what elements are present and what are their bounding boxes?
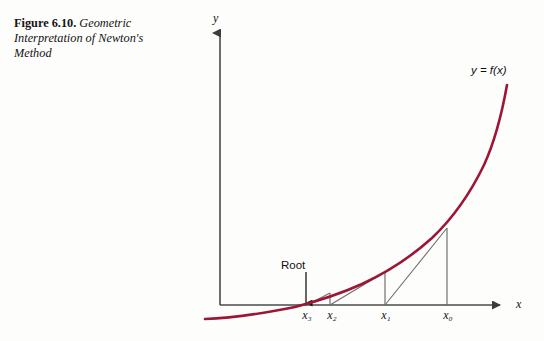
newtons-method-diagram: y x y = f(x) Root x₃ x₂ x₁ x₀ [0,0,544,341]
tick-label-x2: x₂ [327,308,337,323]
diagram-canvas [0,0,544,341]
figure-page: Figure 6.10. Geometric Interpretation of… [0,0,544,341]
y-axis-label: y [213,11,218,26]
tick-label-x3: x₃ [302,308,312,323]
x-axis-label: x [516,297,521,312]
tick-label-x1: x₁ [381,308,391,323]
function-curve [205,85,507,319]
curve-equation-label: y = f(x) [471,64,506,76]
tick-label-x0: x₀ [443,308,453,323]
root-annotation-label: Root [281,259,305,271]
